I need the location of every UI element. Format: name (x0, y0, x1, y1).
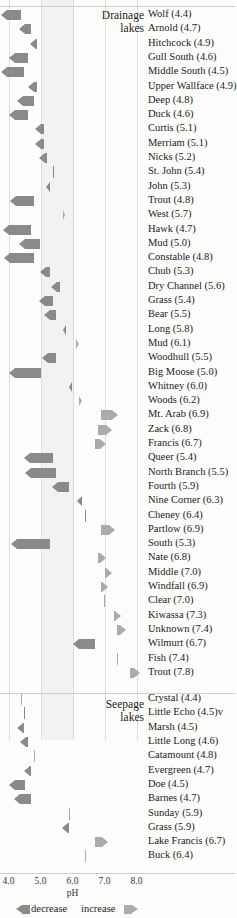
lake-label: Buck (6.4) (148, 848, 193, 862)
lake-row: Buck (6.4) (0, 849, 235, 863)
lake-label: Little Echo (4.5)v (148, 705, 223, 719)
lake-label: Long (5.8) (148, 322, 193, 336)
lake-row: Dry Channel (5.6) (0, 280, 235, 294)
lake-row: Mud (6.1) (0, 337, 235, 351)
lake-row: Trout (7.8) (0, 666, 235, 680)
lake-row: Kiwassa (7.3) (0, 609, 235, 623)
lake-label: Hawk (4.7) (148, 222, 196, 236)
decrease-arrow-icon (24, 453, 53, 463)
lake-row: Merriam (5.1) (0, 137, 235, 151)
decrease-arrow-icon (39, 153, 47, 163)
decrease-arrow-icon (24, 766, 31, 776)
legend-increase-label: increase (81, 902, 115, 916)
axis-tick-label: 8.0 (131, 876, 143, 886)
lake-row: Nicks (5.2) (0, 151, 235, 165)
lake-row: John (5.3) (0, 180, 235, 194)
increase-arrow-icon (98, 425, 112, 435)
lake-row: Bear (5.5) (0, 308, 235, 322)
lake-row: Queer (5.4) (0, 451, 235, 465)
lake-row: Hawk (4.7) (0, 223, 235, 237)
axis-tick-label: 4.0 (3, 876, 15, 886)
lake-label: Chub (5.3) (148, 264, 194, 278)
lake-label: St. John (5.4) (148, 164, 205, 178)
decrease-arrow-icon (9, 110, 28, 120)
lake-row: Hitchcock (4.9) (0, 37, 235, 51)
lake-label: Woods (6.2) (148, 393, 200, 407)
legend-increase-arrow-icon (124, 905, 138, 914)
increase-arrow-icon (114, 611, 121, 621)
legend-decrease-arrow-icon (16, 905, 30, 914)
decrease-arrow-icon (10, 196, 34, 206)
lake-label: Middle South (4.5) (148, 64, 228, 78)
decrease-arrow-icon (9, 780, 25, 790)
lake-label: Catamount (4.8) (148, 748, 217, 762)
decrease-arrow-icon (44, 310, 57, 320)
lake-row: Evergreen (4.7) (0, 764, 235, 778)
lake-label: Nate (6.8) (148, 550, 191, 564)
lake-row: Duck (4.6) (0, 108, 235, 122)
lake-label: Clear (7.0) (148, 593, 193, 607)
lake-row: Deep (4.8) (0, 94, 235, 108)
lake-row: Partlow (6.9) (0, 523, 235, 537)
decrease-arrow-icon (1, 67, 24, 77)
lake-label: West (5.7) (148, 207, 191, 221)
decrease-arrow-icon (73, 639, 95, 649)
lake-row: Mud (5.0) (0, 237, 235, 251)
lake-label: North Branch (5.5) (148, 465, 228, 479)
decrease-arrow-icon (17, 96, 34, 106)
decrease-arrow-icon (42, 353, 57, 363)
decrease-arrow-icon (30, 39, 37, 49)
lake-label: Big Moose (5.0) (148, 365, 217, 379)
lake-row: Gull South (4.6) (0, 51, 235, 65)
lake-label: Trout (4.8) (148, 193, 194, 207)
group-heading-drainage-line1: Drainage (72, 9, 144, 22)
lake-row: Unknown (7.4) (0, 623, 235, 637)
change-tick (85, 850, 86, 862)
decrease-arrow-icon (4, 253, 34, 263)
decrease-arrow-icon (52, 482, 69, 492)
increase-arrow-icon (101, 410, 118, 420)
increase-arrow-icon (98, 553, 106, 563)
lake-row: Nine Corner (6.3) (0, 494, 235, 508)
lake-label: Dry Channel (5.6) (148, 279, 225, 293)
lake-row: Long (5.8) (0, 323, 235, 337)
lake-label: Doe (4.5) (148, 777, 188, 791)
change-tick (117, 653, 118, 665)
axis-tick-label: 5.0 (35, 876, 47, 886)
change-tick (21, 693, 22, 705)
decrease-arrow-icon (20, 737, 28, 747)
lake-label: John (5.3) (148, 179, 191, 193)
lake-row: Lake Francis (6.7) (0, 835, 235, 849)
lake-label: South (5.3) (148, 536, 195, 550)
group-heading-drainage: Drainage lakes (72, 9, 144, 34)
lake-row: Mt. Arab (6.9) (0, 408, 235, 422)
decrease-arrow-icon (17, 723, 24, 733)
lake-label: Queer (5.4) (148, 450, 196, 464)
lake-row: Cheney (6.4) (0, 509, 235, 523)
decrease-arrow-icon (40, 267, 50, 277)
increase-arrow-icon (101, 525, 114, 535)
increase-arrow-icon (101, 582, 107, 592)
increase-arrow-icon (63, 210, 66, 220)
change-tick (24, 707, 25, 719)
decrease-arrow-icon (11, 539, 50, 549)
lake-row: Doe (4.5) (0, 778, 235, 792)
lake-row: Curtis (5.1) (0, 122, 235, 136)
lake-row: Upper Wallface (4.9) (0, 80, 235, 94)
lake-label: Woodhull (5.5) (148, 350, 212, 364)
lake-row: Woodhull (5.5) (0, 351, 235, 365)
lake-label: Hitchcock (4.9) (148, 36, 214, 50)
legend-decrease-label: decrease (31, 902, 67, 916)
lake-label: Deep (4.8) (148, 93, 193, 107)
lake-label: Mud (5.0) (148, 236, 191, 250)
lake-label: Sunday (5.9) (148, 806, 202, 820)
lake-label: Nine Corner (6.3) (148, 493, 223, 507)
increase-arrow-icon (95, 439, 107, 449)
decrease-arrow-icon (62, 823, 69, 833)
lake-row: Whitney (6.0) (0, 380, 235, 394)
lake-row: Constable (4.8) (0, 251, 235, 265)
lake-label: Marsh (4.5) (148, 720, 198, 734)
lake-label: Cheney (6.4) (148, 508, 203, 522)
decrease-arrow-icon (1, 10, 21, 20)
